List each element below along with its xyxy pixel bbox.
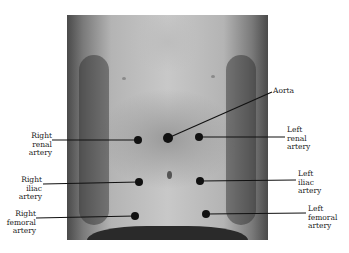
right-renal-label: Right renal artery xyxy=(20,132,52,158)
left-renal-label: Left renal artery xyxy=(287,126,310,152)
aorta-label: Aorta xyxy=(273,87,294,96)
left-femoral-point xyxy=(202,210,210,218)
left-femoral-label: Left femoral artery xyxy=(308,205,337,231)
left-iliac-point xyxy=(196,177,204,185)
right-iliac-point xyxy=(135,178,143,186)
right-renal-point xyxy=(134,136,142,144)
aorta-point xyxy=(163,133,173,143)
right-femoral-label: Right femoral artery xyxy=(2,210,36,236)
right-iliac-label: Right iliac artery xyxy=(10,176,42,202)
left-iliac-label: Left iliac artery xyxy=(298,170,321,196)
right-femoral-point xyxy=(131,212,139,220)
left-renal-point xyxy=(195,133,203,141)
